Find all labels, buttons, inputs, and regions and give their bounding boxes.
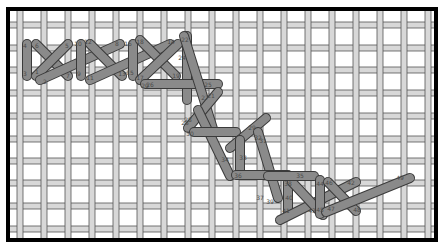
stitch-number-label: 12 — [84, 38, 92, 45]
stitch-number-label: 48 — [353, 206, 361, 213]
stitch-number-label: 39 — [266, 198, 274, 205]
stitch-number-label: 45 — [316, 206, 324, 213]
stitch-number-label: 21 — [207, 92, 215, 99]
stitch-number-label: 17 — [136, 74, 144, 81]
stitch-number-label: 35 — [296, 172, 304, 179]
stitch-number-label: 1 — [35, 68, 39, 75]
stitch-number-label: 33 — [239, 154, 247, 161]
stitch-number-label: 30 — [186, 130, 194, 137]
stitch-number-label: 40 — [285, 194, 293, 201]
vertical-thread — [233, 9, 239, 240]
stitch-number-label: 5 — [65, 42, 69, 49]
stitch-number-label: 15 — [126, 69, 134, 76]
stitch-number-label: 38 — [284, 180, 292, 187]
stitch-number-label: 41 — [282, 207, 290, 214]
stitch-number-label: 13 — [118, 70, 126, 77]
horizontal-thread — [8, 226, 436, 232]
horizontal-thread — [8, 113, 436, 119]
stitch-number-label: 24 — [178, 54, 186, 61]
stitch-number-label: 18 — [136, 38, 144, 45]
stitch-number-label: 7 — [66, 72, 70, 79]
vertical-thread — [425, 9, 431, 240]
stitch-number-label: 47 — [327, 205, 335, 212]
stitch-number-label: 8 — [115, 40, 119, 47]
stitch-number-label: 46 — [325, 179, 333, 186]
stitch-number-label: 49 — [396, 174, 404, 181]
stitch-number-label: 16 — [124, 40, 132, 47]
stitch-number-label: 9 — [77, 70, 81, 77]
vertical-thread — [377, 9, 383, 240]
stitch-number-label: 11 — [86, 74, 94, 81]
stitch-number-label: 14 — [167, 38, 175, 45]
vertical-thread — [401, 9, 407, 240]
horizontal-thread — [8, 180, 436, 186]
stitch-diagram: 4631257101289111316181415171922242026252… — [0, 0, 444, 248]
stitch-number-label: 37 — [256, 194, 264, 201]
stitch-number-label: 31 — [259, 137, 267, 144]
stitch-number-label: 43 — [308, 207, 316, 214]
stitch-number-label: 28 — [184, 116, 192, 123]
horizontal-thread — [8, 203, 436, 209]
stitch-number-label: 4 — [23, 42, 27, 49]
stitch-number-label: 26 — [146, 81, 154, 88]
stitch-number-label: 19 — [172, 72, 180, 79]
stitch-number-label: 29 — [248, 124, 256, 131]
stitch-number-label: 34 — [221, 156, 229, 163]
stitch-number-label: 44 — [316, 180, 324, 187]
stitch-number-label: 22 — [181, 36, 189, 43]
stitch-number-label: 42 — [347, 179, 355, 186]
stitch-number-label: 2 — [43, 78, 47, 85]
stitch-number-label: 36 — [234, 172, 242, 179]
horizontal-thread — [8, 22, 436, 28]
stitch-number-label: 3 — [23, 70, 27, 77]
stitch-number-label: 6 — [35, 42, 39, 49]
stitch-number-label: 25 — [204, 81, 212, 88]
stitch-number-label: 10 — [74, 40, 82, 47]
